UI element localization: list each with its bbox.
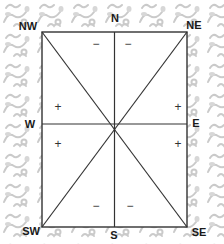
zone-west-upper-sign: + bbox=[54, 101, 61, 113]
direction-diagram: N NE E SE S SW W NW − − + + − − + + bbox=[0, 0, 224, 244]
label-northeast: NE bbox=[186, 20, 201, 31]
zone-north-right-sign: − bbox=[124, 38, 131, 50]
label-north: N bbox=[111, 13, 119, 24]
zone-east-upper-sign: + bbox=[174, 101, 181, 113]
label-east: E bbox=[192, 118, 199, 129]
label-south: S bbox=[110, 230, 117, 241]
zone-west-lower-sign: + bbox=[54, 138, 61, 150]
label-west: W bbox=[25, 119, 35, 130]
label-southeast: SE bbox=[192, 227, 207, 238]
label-southwest: SW bbox=[22, 226, 40, 237]
zone-north-left-sign: − bbox=[92, 38, 99, 50]
zone-east-lower-sign: + bbox=[174, 138, 181, 150]
zone-south-left-sign: − bbox=[92, 200, 99, 212]
zone-south-right-sign: − bbox=[126, 200, 133, 212]
label-northwest: NW bbox=[19, 21, 37, 32]
